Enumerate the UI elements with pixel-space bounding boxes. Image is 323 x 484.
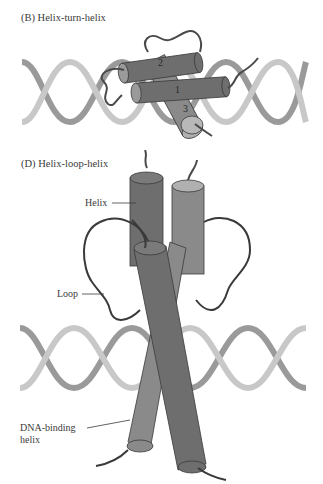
helix-2-number: 2 xyxy=(158,57,163,68)
dna-binding-label-line1: DNA-binding xyxy=(20,422,76,434)
dna-binding-leader-line xyxy=(87,420,130,428)
dna-binding-label-line2: helix xyxy=(20,434,40,446)
helix-turn-helix-illustration: 3 2 1 xyxy=(0,0,323,150)
panel-helix-turn-helix: (B) Helix-turn-helix 3 2 1 xyxy=(0,0,323,150)
loop-label: Loop xyxy=(57,288,78,300)
helix-3-number: 3 xyxy=(183,103,188,114)
helix-label: Helix xyxy=(85,197,107,209)
helix-1 xyxy=(130,77,230,104)
helix-1-number: 1 xyxy=(175,84,180,95)
panel-helix-loop-helix: (D) Helix-loop-helix xyxy=(0,150,323,484)
